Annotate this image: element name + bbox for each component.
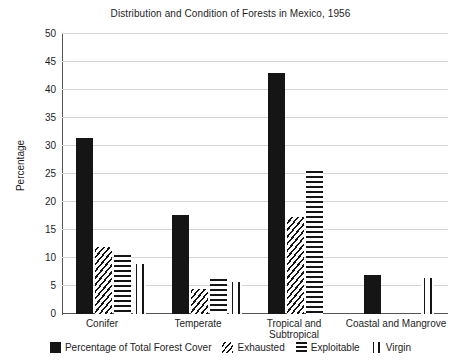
x-category-label-coastal-mangrove: Coastal and Mangrove — [336, 318, 456, 329]
bar-group-temperate — [172, 34, 252, 314]
legend-label-exploitable: Exploitable — [311, 342, 360, 353]
x-category-label-tropical-subtropical: Tropical and Subtropical — [248, 318, 340, 340]
chart-title: Distribution and Condition of Forests in… — [0, 8, 461, 19]
y-tick-label-40: 40 — [45, 84, 56, 95]
bar-group-coastal-mangrove — [364, 34, 444, 314]
x-category-label-tropical-line2: Subtropical — [248, 329, 340, 340]
legend-label-total-forest-cover: Percentage of Total Forest Cover — [65, 342, 212, 353]
legend-label-virgin: Virgin — [386, 342, 411, 353]
x-category-label-temperate: Temperate — [152, 318, 244, 329]
bar-temperate-total[interactable] — [172, 215, 189, 314]
bar-conifer-exploitable[interactable] — [114, 255, 131, 314]
bar-conifer-total[interactable] — [76, 138, 93, 314]
legend-item-total-forest-cover[interactable]: Percentage of Total Forest Cover — [50, 342, 212, 353]
y-tick-label-10: 10 — [45, 252, 56, 263]
bar-coastal-total[interactable] — [364, 275, 381, 314]
bar-temperate-exploitable[interactable] — [210, 279, 227, 314]
bar-tropical-exploitable[interactable] — [306, 171, 323, 314]
legend-swatch-vertical-lines-icon — [371, 342, 382, 353]
y-tick-label-15: 15 — [45, 224, 56, 235]
bar-temperate-virgin[interactable] — [229, 282, 242, 314]
y-tick-label-0: 0 — [50, 308, 56, 319]
legend-label-exhausted: Exhausted — [237, 342, 284, 353]
x-category-label-tropical-line1: Tropical and — [248, 318, 340, 329]
bar-conifer-virgin[interactable] — [133, 264, 146, 314]
legend-item-virgin[interactable]: Virgin — [371, 342, 411, 353]
y-tick-label-45: 45 — [45, 56, 56, 67]
y-tick-label-25: 25 — [45, 168, 56, 179]
bar-tropical-total[interactable] — [268, 73, 285, 314]
y-tick-label-35: 35 — [45, 112, 56, 123]
bar-temperate-exhausted[interactable] — [191, 289, 208, 314]
y-tick-label-30: 30 — [45, 140, 56, 151]
legend-swatch-diagonal-hatch-icon — [222, 342, 233, 353]
bar-conifer-exhausted[interactable] — [95, 247, 112, 314]
y-tick-label-5: 5 — [50, 280, 56, 291]
x-category-label-conifer: Conifer — [56, 318, 148, 329]
plot-area: 50 45 40 35 30 25 20 15 10 5 0 — [62, 34, 448, 314]
legend-item-exhausted[interactable]: Exhausted — [222, 342, 284, 353]
y-tick-label-20: 20 — [45, 196, 56, 207]
chart-legend: Percentage of Total Forest Cover Exhaust… — [0, 342, 461, 353]
legend-swatch-horizontal-lines-icon — [296, 342, 307, 353]
legend-swatch-solid-icon — [50, 342, 61, 353]
y-tick-label-50: 50 — [45, 28, 56, 39]
legend-item-exploitable[interactable]: Exploitable — [296, 342, 360, 353]
bar-group-tropical-subtropical — [268, 34, 348, 314]
bar-tropical-exhausted[interactable] — [287, 217, 304, 314]
bar-coastal-virgin[interactable] — [421, 278, 434, 314]
bar-group-conifer — [76, 34, 156, 314]
y-axis-title: Percentage — [15, 126, 26, 206]
forest-distribution-bar-chart: Distribution and Condition of Forests in… — [0, 0, 461, 361]
